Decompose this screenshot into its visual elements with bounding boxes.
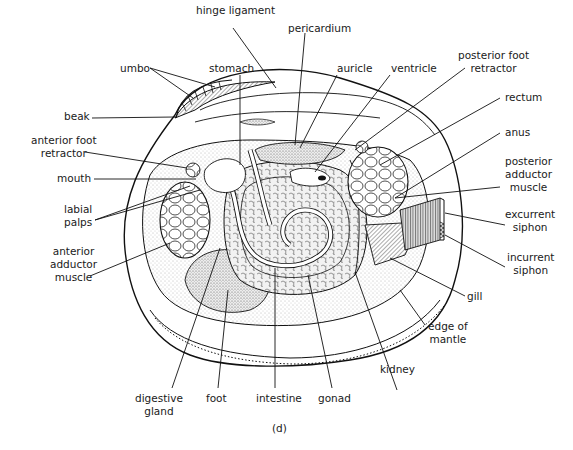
label-posterior-adductor-line2: adductor — [505, 168, 552, 181]
label-anterior-foot-retractor-line1: anterior foot — [31, 134, 97, 147]
label-labial-palps: labial palps — [64, 203, 92, 229]
label-posterior-foot-retractor-line2: retractor — [458, 62, 529, 75]
label-incurrent-siphon: incurrent siphon — [507, 251, 554, 277]
label-edge-of-mantle-line1: edge of — [428, 320, 468, 333]
label-incurrent-siphon-line2: siphon — [507, 264, 554, 277]
label-pericardium: pericardium — [288, 22, 351, 35]
label-excurrent-siphon-line1: excurrent — [505, 208, 555, 221]
label-auricle: auricle — [337, 62, 372, 75]
label-kidney: kidney — [380, 363, 415, 376]
label-anterior-adductor-line2: adductor — [50, 258, 97, 271]
label-posterior-foot-retractor: posterior foot retractor — [458, 49, 529, 75]
label-posterior-adductor-line3: muscle — [505, 181, 552, 194]
label-umbo: umbo — [120, 62, 150, 75]
label-rectum: rectum — [505, 91, 542, 104]
label-stomach: stomach — [209, 62, 254, 75]
label-hinge-ligament: hinge ligament — [196, 4, 275, 17]
label-digestive-gland-line1: digestive — [135, 392, 183, 405]
label-anus: anus — [505, 126, 530, 139]
label-beak: beak — [64, 110, 90, 123]
label-edge-of-mantle: edge of mantle — [428, 320, 468, 346]
label-intestine: intestine — [256, 392, 302, 405]
label-labial-palps-line2: palps — [64, 216, 92, 229]
label-labial-palps-line1: labial — [64, 203, 92, 216]
label-gonad: gonad — [318, 392, 351, 405]
label-posterior-foot-retractor-line1: posterior foot — [458, 49, 529, 62]
label-digestive-gland: digestive gland — [135, 392, 183, 418]
label-excurrent-siphon-line2: siphon — [505, 221, 555, 234]
label-anterior-foot-retractor: anterior foot retractor — [31, 134, 97, 160]
label-anterior-foot-retractor-line2: retractor — [31, 147, 97, 160]
label-anterior-adductor-line3: muscle — [50, 271, 97, 284]
label-incurrent-siphon-line1: incurrent — [507, 251, 554, 264]
label-ventricle: ventricle — [391, 62, 437, 75]
label-anterior-adductor-line1: anterior — [50, 245, 97, 258]
label-posterior-adductor-muscle: posterior adductor muscle — [505, 155, 552, 194]
label-edge-of-mantle-line2: mantle — [428, 333, 468, 346]
label-excurrent-siphon: excurrent siphon — [505, 208, 555, 234]
label-gill: gill — [467, 290, 482, 303]
label-posterior-adductor-line1: posterior — [505, 155, 552, 168]
label-mouth: mouth — [57, 172, 91, 185]
label-anterior-adductor-muscle: anterior adductor muscle — [50, 245, 97, 284]
label-digestive-gland-line2: gland — [135, 405, 183, 418]
figure-caption: (d) — [272, 422, 287, 434]
label-foot: foot — [206, 392, 227, 405]
